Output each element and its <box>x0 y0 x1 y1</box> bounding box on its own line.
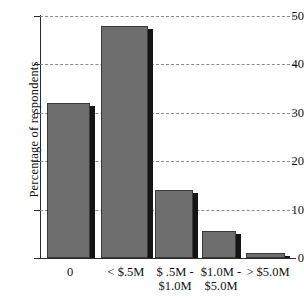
y-axis-tick <box>34 258 40 259</box>
plot-area <box>40 16 296 258</box>
bar-shadow <box>193 193 198 258</box>
gridline <box>40 64 295 65</box>
gridline <box>40 16 295 17</box>
chart-figure: Percentage of respondents 01020304050 0<… <box>0 0 304 301</box>
bar-shadow <box>236 234 241 258</box>
bar-shadow <box>148 29 153 258</box>
bar <box>246 253 285 258</box>
bar <box>101 26 148 258</box>
x-axis-tick-label: > $5.0M <box>228 266 304 280</box>
bar-shadow <box>285 256 290 258</box>
bar-shadow <box>90 106 95 258</box>
bar <box>202 231 236 258</box>
x-axis-line <box>40 258 296 259</box>
bar <box>155 190 193 258</box>
bar <box>47 103 90 258</box>
